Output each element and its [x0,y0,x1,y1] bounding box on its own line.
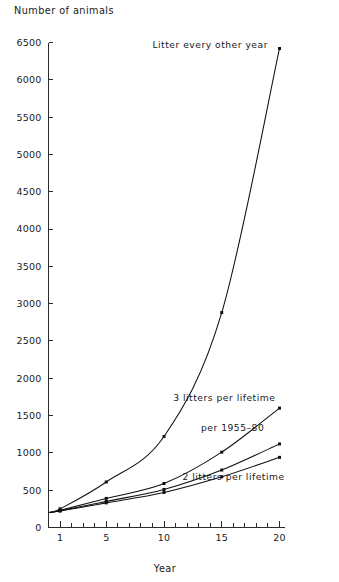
y-axis-tick-label: 4500 [17,186,42,197]
chart-figure: 0500100015002000250030003500400045005000… [0,0,339,582]
data-point-marker [105,497,108,500]
y-axis-tick-label: 5500 [17,112,42,123]
data-point-marker [163,435,166,438]
x-axis-tick-label: 15 [216,532,229,543]
data-point-marker [105,501,108,504]
data-point-marker [163,491,166,494]
series-label: per 1955–80 [201,422,264,433]
data-point-marker [163,488,166,491]
y-axis-tick-label: 1000 [17,447,42,458]
series-0 [49,47,282,513]
x-axis-tick-label: 5 [103,532,109,543]
chart-svg: 0500100015002000250030003500400045005000… [0,0,339,582]
data-point-marker [278,456,281,459]
data-point-marker [220,451,223,454]
y-axis-tick-label: 6000 [17,74,42,85]
data-point-marker [105,480,108,483]
x-axis-tick-label: 20 [273,532,286,543]
x-axis-title: Year [153,563,176,574]
y-axis-tick-label: 5000 [17,149,42,160]
data-point-marker [59,510,62,513]
labels-layer: Litter every other year3 litters per lif… [152,39,284,481]
y-axis-tick-label: 2500 [17,335,42,346]
series-layer [49,47,282,513]
y-axis-tick-label: 3000 [17,298,42,309]
data-point-marker [278,407,281,410]
data-point-marker [220,311,223,314]
series-line [49,48,280,512]
series-label: Litter every other year [152,39,268,50]
series-label: 2 litters per lifetime [182,471,284,482]
data-point-marker [278,47,281,50]
axes-layer: 0500100015002000250030003500400045005000… [17,37,286,543]
x-axis-tick-label: 10 [158,532,171,543]
x-axis-tick-label: 1 [57,532,63,543]
data-point-marker [278,442,281,445]
series-label: 3 litters per lifetime [173,392,275,403]
y-axis-tick-label: 2000 [17,373,42,384]
data-point-marker [163,482,166,485]
y-axis-tick-label: 0 [35,522,41,533]
y-axis-title: Number of animals [14,5,114,16]
y-axis-tick-label: 3500 [17,261,42,272]
y-axis-tick-label: 1500 [17,410,42,421]
y-axis-tick-label: 4000 [17,223,42,234]
y-axis-tick-label: 6500 [17,37,42,48]
y-axis-tick-label: 500 [23,485,42,496]
